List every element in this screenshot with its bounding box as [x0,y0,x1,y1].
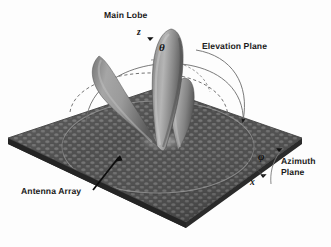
figure-canvas: Main Lobe Elevation Plane Azimuth Plane … [0,0,331,247]
symbol-phi: φ [258,151,264,162]
antenna-pattern-illustration [0,0,331,247]
symbol-z-axis: z [137,28,141,38]
label-azimuth-plane: Azimuth Plane [281,156,316,177]
label-main-lobe: Main Lobe [104,10,147,21]
x-axis-arrow [260,174,266,178]
label-elevation-plane: Elevation Plane [202,41,267,52]
label-antenna-array: Antenna Array [21,186,81,197]
label-azimuth-plane-line1: Azimuth [281,156,316,166]
z-axis-arrow [147,37,153,41]
symbol-x-axis: x [250,178,255,188]
label-azimuth-plane-line2: Plane [281,167,304,177]
symbol-theta: θ [159,42,165,53]
